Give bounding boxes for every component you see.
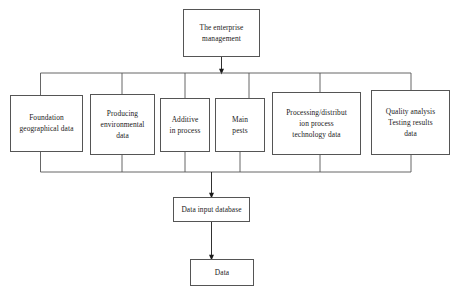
node-label-line: Data <box>215 267 229 278</box>
node-producing-environmental-data[interactable]: Producing environmental data <box>90 94 155 155</box>
node-label-line: Additive <box>172 114 199 125</box>
node-processing-distribution-process-technology-data[interactable]: Processing/distribut ion process technol… <box>272 92 361 155</box>
node-data[interactable]: Data <box>190 259 254 286</box>
node-foundation-geographical-data[interactable]: Foundation geographical data <box>10 95 83 152</box>
node-label-line: Main <box>232 114 248 125</box>
node-label-line: Testing results <box>388 117 432 128</box>
node-label-line: geographical data <box>19 124 73 135</box>
node-label-line: Quality analysis <box>386 106 435 117</box>
node-label-line: management <box>202 33 241 44</box>
node-label-line: Producing <box>107 108 138 119</box>
node-additive-in-process[interactable]: Additive in process <box>160 98 210 152</box>
node-label-line: pests <box>232 125 247 136</box>
node-data-input-database[interactable]: Data input database <box>173 197 250 222</box>
node-the-enterprise-management[interactable]: The enterprise management <box>183 9 260 57</box>
node-label-line: in process <box>170 125 201 136</box>
node-label-line: Data input database <box>181 204 241 215</box>
node-main-pests[interactable]: Main pests <box>215 98 265 152</box>
flowchart-diagram: The enterprise management Foundation geo… <box>0 0 457 295</box>
node-label-line: The enterprise <box>200 22 244 33</box>
node-label-line: environmental <box>101 119 145 130</box>
node-label-line: Processing/distribut <box>286 107 347 118</box>
node-label-line: data <box>116 130 129 141</box>
node-label-line: ion process <box>299 118 334 129</box>
node-label-line: Foundation <box>29 113 64 124</box>
node-label-line: technology data <box>292 129 341 140</box>
node-label-line: data <box>404 128 417 139</box>
node-quality-analysis-testing-results-data[interactable]: Quality analysis Testing results data <box>371 90 450 155</box>
